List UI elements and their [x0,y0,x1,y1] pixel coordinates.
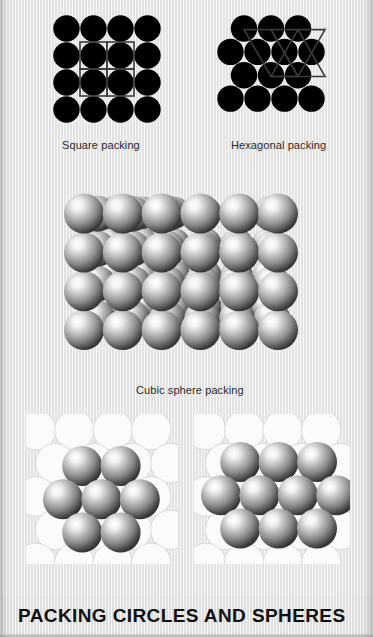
packed-sphere [64,194,104,234]
packing-circle [258,15,284,41]
packing-circle [271,85,297,111]
packing-circle [217,85,243,111]
packing-circle [53,15,79,41]
packed-sphere [219,271,259,311]
packed-sphere [219,310,259,350]
packed-sphere [101,513,141,553]
packed-sphere [64,310,104,350]
packing-circle [285,15,311,41]
packing-circle [231,15,257,41]
packing-circle [244,85,270,111]
packed-sphere [180,232,220,272]
packed-sphere [220,509,260,549]
hexagonal-packing-svg [216,14,340,134]
cubic-spheres-group [64,194,298,350]
packing-circle [134,42,160,68]
packing-circle [107,96,133,122]
caption-hexagonal-packing: Hexagonal packing [231,139,326,151]
page-title: PACKING CIRCLES AND SPHERES [18,605,346,627]
packing-circle [298,85,324,111]
packing-circle [231,62,257,88]
packing-circle [217,39,243,65]
packing-circle [134,96,160,122]
hex-layer-small-svg [26,414,178,564]
packed-sphere [258,310,298,350]
packing-circle [134,15,160,41]
packing-circle [80,42,106,68]
packed-sphere [180,310,220,350]
illustration-page: Square packing Hexagonal packing Cubi [0,0,373,637]
packed-sphere [64,271,104,311]
packed-sphere [297,509,337,549]
page-right-edge-shadow [365,0,373,637]
packing-circle [80,15,106,41]
hex-layer-large-svg [194,414,350,564]
page-left-edge-shadow [0,0,6,637]
square-packing-svg [52,14,170,134]
packed-sphere [258,194,298,234]
packed-sphere [103,310,143,350]
packed-sphere [142,194,182,234]
hex-layer-large-top-spheres [201,442,350,549]
packed-sphere [103,271,143,311]
packing-circle [107,69,133,95]
packing-circle [107,15,133,41]
packing-circle [80,96,106,122]
packed-sphere [219,232,259,272]
caption-square-packing: Square packing [62,139,140,151]
figure-cubic-sphere-packing [62,178,314,374]
packed-sphere [258,232,298,272]
packed-sphere [259,509,299,549]
packed-sphere [258,271,298,311]
packed-sphere [180,271,220,311]
packed-sphere [103,194,143,234]
figure-hex-layer-small [26,414,178,564]
packed-sphere [142,271,182,311]
caption-cubic-sphere-packing: Cubic sphere packing [136,384,244,396]
packing-circle [134,69,160,95]
packed-sphere [142,232,182,272]
packed-sphere [180,194,220,234]
figure-hexagonal-packing [216,14,340,134]
packing-circle [53,42,79,68]
figure-square-packing [52,14,170,134]
packing-circle [107,42,133,68]
packed-sphere [142,310,182,350]
packed-sphere [103,232,143,272]
packed-sphere [219,194,259,234]
packing-circle [80,69,106,95]
cubic-sphere-packing-svg [62,178,314,374]
packed-sphere [62,513,102,553]
packing-circle [53,96,79,122]
packing-circle [53,69,79,95]
figure-hex-layer-large [194,414,350,564]
packed-sphere [64,232,104,272]
